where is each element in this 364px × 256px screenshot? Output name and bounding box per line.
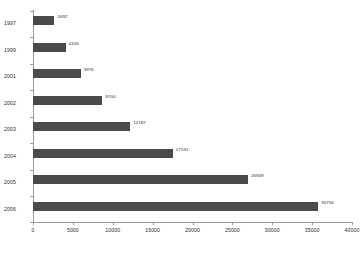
bar-row: 4105 (33, 37, 352, 64)
bar-chart: 19971999200120022003200420052006 2692410… (0, 0, 364, 256)
y-axis-tick (30, 11, 33, 12)
bar (33, 149, 173, 158)
bar-row: 35756 (33, 196, 352, 223)
bar (33, 16, 54, 25)
bar (33, 122, 130, 131)
x-axis-label: 0 (32, 227, 35, 233)
bar-value-label: 35756 (321, 200, 334, 205)
bar-value-label: 2692 (57, 14, 67, 19)
x-axis-tick (113, 222, 114, 225)
y-axis-tick (30, 117, 33, 118)
x-axis-tick (272, 222, 273, 225)
bar-value-label: 12187 (133, 120, 146, 125)
bar-row: 12187 (33, 116, 352, 143)
x-axis-ticks: 0500010000150002000025000300003500040000 (33, 222, 352, 242)
x-axis-tick (73, 222, 74, 225)
bar-row: 8700 (33, 90, 352, 117)
bar-row: 2692 (33, 10, 352, 37)
y-axis-label: 1997 (4, 20, 16, 26)
bar (33, 96, 102, 105)
y-axis-label: 2003 (4, 126, 16, 132)
x-axis-tick (193, 222, 194, 225)
y-axis-label: 2002 (4, 100, 16, 106)
x-axis-tick (153, 222, 154, 225)
x-axis-label: 35000 (305, 227, 320, 233)
bar-value-label: 5976 (84, 67, 94, 72)
x-axis-label: 15000 (145, 227, 160, 233)
y-axis-tick (30, 196, 33, 197)
x-axis-label: 30000 (265, 227, 280, 233)
bar-value-label: 8700 (105, 94, 115, 99)
bar (33, 175, 248, 184)
bar-row: 17531 (33, 143, 352, 170)
x-axis-tick (232, 222, 233, 225)
y-axis-tick (30, 37, 33, 38)
y-axis-tick (30, 143, 33, 144)
y-axis-category-labels: 19971999200120022003200420052006 (0, 10, 33, 222)
y-axis-tick (30, 170, 33, 171)
bar-value-label: 17531 (176, 147, 189, 152)
x-axis-label: 10000 (105, 227, 120, 233)
x-axis-label: 40000 (345, 227, 360, 233)
y-axis-label: 2005 (4, 179, 16, 185)
bar (33, 69, 81, 78)
y-axis-label: 2004 (4, 153, 16, 159)
x-axis-tick (33, 222, 34, 225)
x-axis-label: 5000 (67, 227, 79, 233)
x-axis-tick (312, 222, 313, 225)
bar-row: 26949 (33, 169, 352, 196)
plot-area: 269241055976870012187175312694935756 (33, 10, 352, 222)
bar-value-label: 26949 (251, 173, 264, 178)
y-axis-label: 2006 (4, 206, 16, 212)
y-axis-tick (30, 90, 33, 91)
y-axis-label: 2001 (4, 73, 16, 79)
x-axis-label: 25000 (225, 227, 240, 233)
bar (33, 43, 66, 52)
y-axis-tick (30, 64, 33, 65)
y-axis-label: 1999 (4, 47, 16, 53)
bar-row: 5976 (33, 63, 352, 90)
x-axis-tick (352, 222, 353, 225)
bar (33, 202, 318, 211)
bar-value-label: 4105 (69, 41, 79, 46)
x-axis-label: 20000 (185, 227, 200, 233)
